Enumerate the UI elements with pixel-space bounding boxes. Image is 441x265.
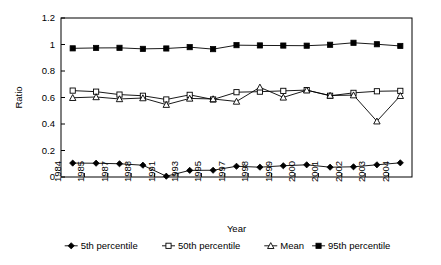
x-axis-title: Year: [227, 223, 246, 234]
y-tick-label: 0.4: [42, 118, 55, 129]
data-point: [211, 47, 216, 52]
chart-legend: 5th percentile50th percentileMean95th pe…: [65, 240, 391, 251]
legend-marker: [68, 243, 74, 249]
y-axis-title: Ratio: [13, 86, 24, 108]
legend-item[interactable]: 5th percentile: [65, 240, 138, 251]
data-point: [257, 84, 263, 90]
line-chart: 00.20.40.60.811.219841985198719881991199…: [0, 0, 441, 265]
legend-label: 50th percentile: [178, 240, 240, 251]
series-5th-percentile: [70, 160, 404, 180]
data-point: [257, 43, 262, 48]
x-tick-label: 2003: [356, 161, 367, 182]
legend-label: 5th percentile: [81, 240, 138, 251]
data-point: [351, 40, 356, 45]
x-tick-label: 1985: [75, 161, 86, 182]
legend-label: 95th percentile: [328, 240, 390, 251]
x-tick-label: 1991: [146, 161, 157, 182]
data-point: [374, 42, 379, 47]
x-tick-label: 1987: [99, 161, 110, 182]
data-point: [117, 45, 122, 50]
y-tick-label: 1.2: [42, 12, 55, 23]
x-tick-label: 1995: [192, 161, 203, 182]
x-tick-label: 1998: [239, 161, 250, 182]
data-point: [94, 45, 99, 50]
data-point: [70, 46, 75, 51]
x-tick-label: 2002: [333, 161, 344, 182]
data-point: [140, 46, 145, 51]
y-tick-label: 0.6: [42, 92, 55, 103]
legend-item[interactable]: 95th percentile: [312, 240, 390, 251]
y-tick-label: 1: [50, 39, 55, 50]
y-tick-label: 0.2: [42, 145, 55, 156]
x-tick-label: 1984: [52, 161, 63, 182]
data-point: [281, 88, 286, 93]
chart-figure: 00.20.40.60.811.219841985198719881991199…: [0, 0, 441, 265]
data-point: [328, 42, 333, 47]
data-point: [70, 88, 75, 93]
x-tick-label: 2001: [309, 161, 320, 182]
data-point: [398, 43, 403, 48]
data-point: [374, 89, 379, 94]
series-95th-percentile: [70, 40, 403, 52]
data-point: [234, 43, 239, 48]
legend-item[interactable]: Mean: [264, 240, 304, 251]
data-point: [164, 46, 169, 51]
legend-marker: [316, 243, 321, 248]
x-tick-label: 1993: [169, 161, 180, 182]
data-point: [234, 90, 239, 95]
data-point: [187, 45, 192, 50]
x-tick-label: 2000: [286, 161, 297, 182]
legend-label: Mean: [280, 240, 304, 251]
x-tick-label: 1997: [216, 161, 227, 182]
y-tick-label: 0.8: [42, 65, 55, 76]
legend-item[interactable]: 50th percentile: [162, 240, 240, 251]
data-point: [281, 43, 286, 48]
legend-marker: [166, 243, 171, 248]
data-point: [304, 43, 309, 48]
data-point: [397, 160, 403, 166]
x-tick-label: 1999: [263, 161, 274, 182]
